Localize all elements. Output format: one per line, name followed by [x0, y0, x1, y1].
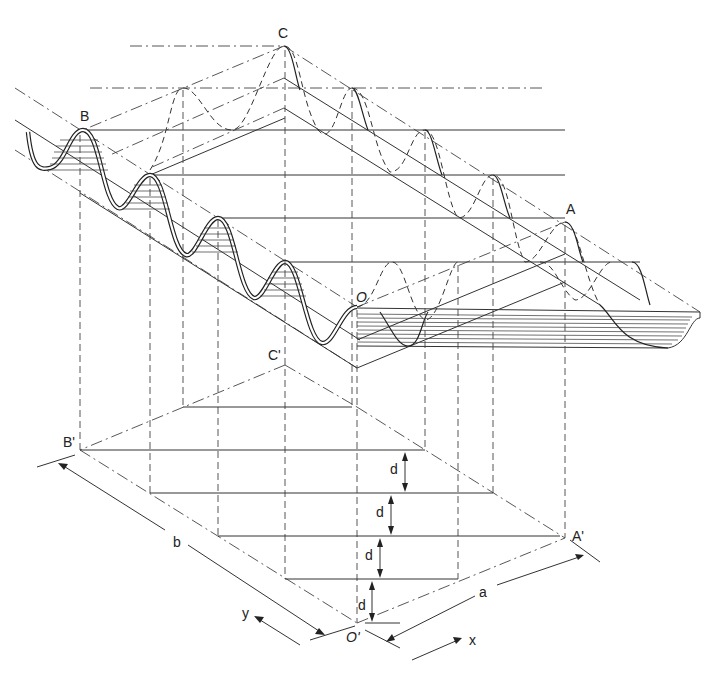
d-dimensions: d d d d: [358, 452, 408, 622]
rise-4: [150, 118, 285, 175]
wave-dash-row1: [150, 46, 352, 170]
plan-o-a: [357, 538, 565, 623]
x-axis-label: x: [469, 632, 476, 648]
label-c: C: [278, 25, 288, 41]
wave-dash-row2: [352, 88, 600, 305]
sheet-outer: [28, 130, 357, 343]
plan-right-edge: [357, 407, 565, 538]
label-b-prime: B': [63, 434, 75, 450]
eave-section: [357, 305, 700, 348]
wave-dash-row3: [357, 262, 458, 320]
ridge-c-a: [284, 46, 700, 312]
d-label-1: d: [390, 461, 398, 477]
a-dimension: a: [365, 540, 600, 648]
x-axis-arrow-icon: [453, 637, 462, 644]
wave-dash-row4: [540, 262, 612, 300]
ridge-inner-2: [150, 108, 284, 168]
b-dimension: b: [37, 455, 355, 640]
d-label-2: d: [376, 504, 384, 520]
plan-view: [80, 365, 565, 623]
label-a-prime: A': [572, 528, 584, 544]
b-label: b: [173, 534, 181, 550]
flank-6: [632, 262, 650, 305]
y-axis-line: [257, 618, 300, 645]
label-o: O: [356, 289, 367, 305]
diag-1: [15, 88, 357, 307]
eave-top: [357, 308, 700, 312]
label-o-prime: O': [346, 629, 361, 645]
label-c-prime: C': [268, 347, 281, 363]
label-b: B: [80, 108, 89, 124]
d-label-4: d: [358, 597, 366, 613]
corrugated-roof-diagram: d d d d b a y x C B A O C': [0, 0, 719, 680]
ridge-inner-4: [284, 108, 600, 305]
a-label: a: [479, 584, 487, 600]
wave-projections: [150, 46, 650, 320]
flank-3: [425, 130, 442, 175]
ridge-inner-3: [284, 78, 640, 300]
rise-o-a: [357, 222, 565, 307]
x-axis-line: [412, 640, 458, 660]
plan-c-right: [285, 365, 357, 407]
ridge-inner-1: [110, 78, 284, 155]
y-axis-label: y: [242, 605, 249, 621]
flank-a: [565, 222, 583, 262]
d-label-3: d: [365, 547, 373, 563]
label-a: A: [566, 201, 576, 217]
sheet-profile: [28, 130, 357, 343]
